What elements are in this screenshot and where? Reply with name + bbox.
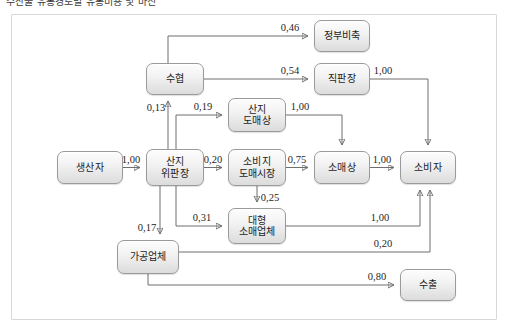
edge-retailer-consumer: 1,00 [370,154,394,168]
node-export[interactable]: 수출 [400,269,456,301]
node-label: 수협 [166,73,184,84]
node-retailer[interactable]: 소매상 [314,151,370,184]
edge-label-auction-bigretail: 0,31 [193,212,211,223]
edge-label-producer-auction: 1,00 [122,154,140,165]
node-producer[interactable]: 생산자 [57,151,123,184]
edge-label-bigretail-consumer: 1,00 [371,212,389,223]
edge-label-localwhole-retailer: 1,00 [291,101,309,112]
node-label: 소매상 [328,162,356,173]
edge-coop-stockpile: 0,46 [168,22,308,63]
node-label: 수출 [419,279,437,290]
edge-auction-processor: 0,17 [138,186,160,234]
node-consumer[interactable]: 소비자 [400,151,456,184]
edge-citywhole-bigretail: 0,25 [257,186,279,203]
node-localwhole[interactable]: 산지도매상 [228,98,286,132]
node-citywhole[interactable]: 소비지도매시장 [228,149,286,186]
edge-processor-consumer: 0,20 [179,190,430,252]
node-label: 산지위판장 [161,156,189,178]
node-bigretail[interactable]: 대형소매업체 [228,208,286,244]
node-stockpile[interactable]: 정부비축 [314,20,370,52]
node-label: 가공업체 [130,251,167,262]
edge-producer-auction: 1,00 [122,154,140,168]
node-label: 생산자 [76,162,104,173]
edge-auction-coop: 0,13 [147,101,168,149]
node-processor[interactable]: 가공업체 [117,240,179,274]
node-label: 소비지도매시장 [239,156,276,178]
edge-label-processor-consumer: 0,20 [374,238,392,249]
node-label: 대형소매업체 [239,215,276,237]
edge-directshop-consumer: 1,00 [370,65,428,145]
edge-bigretail-consumer: 1,00 [286,190,420,226]
node-label: 직판장 [328,73,356,84]
edge-localwhole-retailer: 1,00 [286,101,342,145]
node-directshop[interactable]: 직판장 [314,63,370,95]
edge-auction-citywhole: 0,20 [204,154,222,168]
edge-label-coop-stockpile: 0,46 [281,22,299,33]
edge-label-auction-processor: 0,17 [138,222,156,233]
edge-label-coop-directshop: 0,54 [281,65,300,76]
node-label: 소비자 [414,162,442,173]
edge-label-citywhole-bigretail: 0,25 [261,192,279,203]
edge-label-processor-export: 0,80 [368,271,386,282]
edge-processor-export: 0,80 [148,271,394,285]
node-auction[interactable]: 산지위판장 [146,149,204,186]
edge-label-auction-localwhole: 0,19 [194,101,212,112]
edge-coop-directshop: 0,54 [204,65,308,79]
edge-citywhole-retailer: 0,75 [286,154,308,168]
node-coop[interactable]: 수협 [146,63,204,95]
node-label: 정부비축 [324,30,361,41]
edge-label-auction-coop: 0,13 [147,102,165,113]
edge-auction-bigretail: 0,31 [176,186,222,226]
edge-label-retailer-consumer: 1,00 [373,154,391,165]
edge-label-directshop-consumer: 1,00 [374,65,392,76]
edge-label-auction-citywhole: 0,20 [204,154,222,165]
node-label: 산지도매상 [243,104,271,126]
edge-label-citywhole-retailer: 0,75 [288,154,306,165]
